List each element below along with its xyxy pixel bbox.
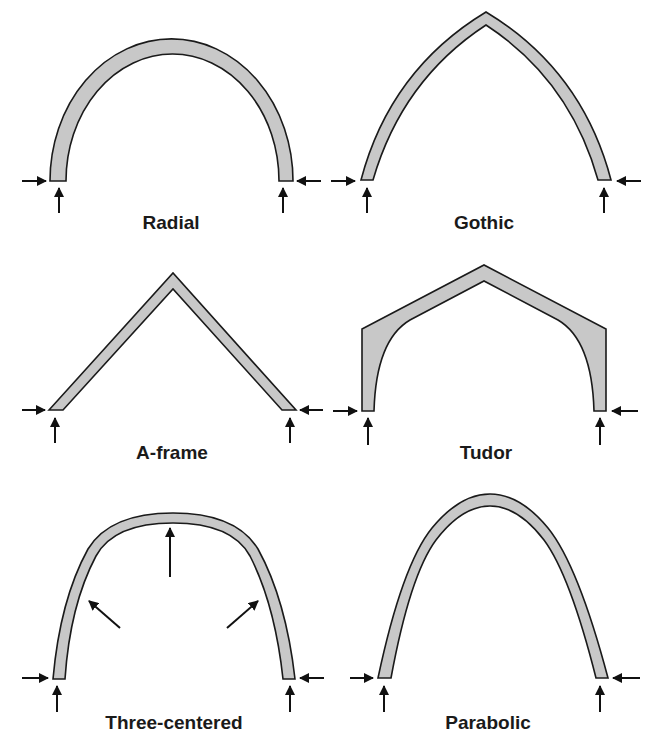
label-parabolic: Parabolic xyxy=(388,712,588,734)
a-frame-arch-shape xyxy=(49,273,296,410)
gothic-arch-shape xyxy=(361,12,611,180)
radial-thrust-arrow-left-icon xyxy=(89,601,120,628)
radial-arch-shape xyxy=(50,39,293,181)
arch-gothic xyxy=(331,12,641,213)
tudor-arch-shape xyxy=(362,265,606,411)
arch-tudor xyxy=(333,265,638,445)
arch-diagram xyxy=(0,0,651,755)
parabolic-arch-shape xyxy=(378,494,608,678)
label-a-frame: A-frame xyxy=(72,442,272,464)
label-three-centered: Three-centered xyxy=(74,712,274,734)
arch-a-frame xyxy=(22,273,323,443)
label-tudor: Tudor xyxy=(386,442,586,464)
three-centered-arch-shape xyxy=(53,513,295,679)
radial-thrust-arrow-right-icon xyxy=(227,601,258,628)
arch-parabolic xyxy=(350,494,640,712)
label-radial: Radial xyxy=(71,212,271,234)
label-gothic: Gothic xyxy=(384,212,584,234)
arch-three-centered xyxy=(22,513,324,712)
arch-radial xyxy=(22,39,321,213)
